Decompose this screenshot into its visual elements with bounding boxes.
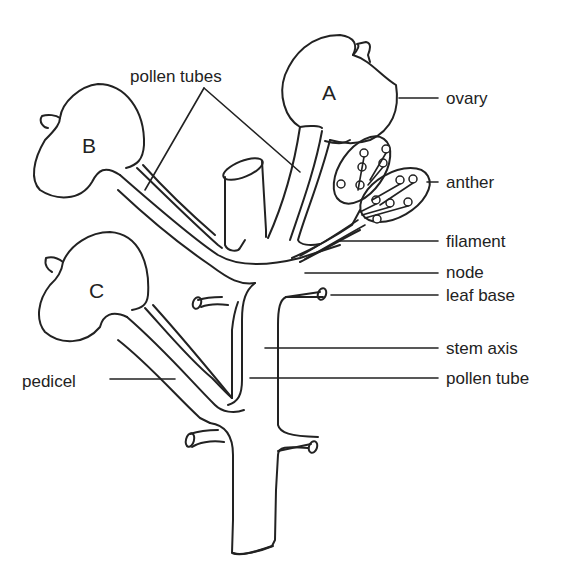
cut-stem-stub: [221, 154, 266, 251]
flower-label-a: A: [322, 81, 336, 104]
plant-diagram: A B C: [0, 0, 583, 582]
label-ovary: ovary: [446, 89, 488, 108]
pedicel-b: [118, 165, 340, 283]
leader-lines: [110, 88, 438, 379]
pedicel-c: [118, 302, 244, 423]
flower-label-b: B: [82, 134, 96, 157]
filament-shape: [292, 210, 365, 262]
label-node: node: [446, 263, 484, 282]
label-stem-axis: stem axis: [446, 339, 518, 358]
label-pedicel: pedicel: [22, 372, 76, 391]
stem-axis-shape: [210, 283, 323, 554]
ovary-c: C: [39, 232, 148, 341]
label-leaf-base: leaf base: [446, 286, 515, 305]
label-anther: anther: [446, 173, 495, 192]
label-filament: filament: [446, 232, 506, 251]
ovary-a: A: [282, 35, 397, 143]
leaf-base-shapes: [184, 287, 327, 454]
label-pollen-tube: pollen tube: [446, 369, 529, 388]
label-pollen-tubes: pollen tubes: [130, 67, 222, 86]
diagram-canvas: A B C: [0, 0, 583, 582]
flower-label-c: C: [89, 279, 104, 302]
